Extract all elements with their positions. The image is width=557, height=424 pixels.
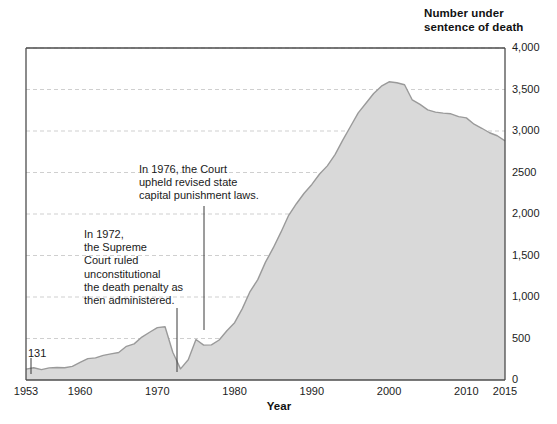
y-tick-label: 0 bbox=[512, 373, 518, 385]
x-tick-label: 2000 bbox=[377, 385, 401, 397]
y-tick-label: 1,500 bbox=[512, 249, 540, 261]
y-tick-label: 4,000 bbox=[512, 41, 540, 53]
x-axis-title: Year bbox=[224, 400, 334, 414]
area-chart-plot bbox=[0, 0, 557, 424]
y-tick-label: 2500 bbox=[512, 166, 536, 178]
chart-figure: Number under sentence of death 05001,000… bbox=[0, 0, 557, 424]
y-tick-label: 3,000 bbox=[512, 124, 540, 136]
x-tick-label: 1980 bbox=[222, 385, 246, 397]
y-tick-label: 1,000 bbox=[512, 290, 540, 302]
annotation-1976-text: In 1976, the Court upheld revised state … bbox=[139, 163, 259, 203]
x-tick-label: 2015 bbox=[493, 385, 517, 397]
y-tick-label: 3,500 bbox=[512, 83, 540, 95]
x-tick-label: 1970 bbox=[145, 385, 169, 397]
x-tick-label: 1960 bbox=[68, 385, 92, 397]
y-tick-label: 500 bbox=[512, 332, 530, 344]
x-tick-label: 2010 bbox=[454, 385, 478, 397]
annotation-1972-text: In 1972, the Supreme Court ruled unconst… bbox=[84, 228, 183, 307]
x-tick-label: 1990 bbox=[300, 385, 324, 397]
data-label-131: 131 bbox=[28, 347, 46, 359]
x-tick-label: 1953 bbox=[14, 385, 38, 397]
chart-y-axis-title: Number under sentence of death bbox=[424, 7, 523, 34]
y-tick-label: 2,000 bbox=[512, 207, 540, 219]
